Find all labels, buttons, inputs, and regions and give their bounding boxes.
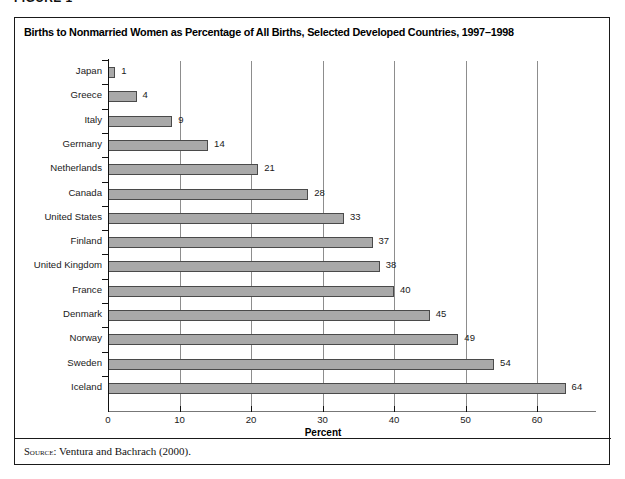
y-axis-tick [102,254,108,255]
y-axis-tick [102,376,108,377]
bar-row[interactable]: 37 [108,231,609,255]
bar-united-kingdom[interactable] [108,261,380,272]
category-label-norway: Norway [16,332,102,343]
bar-canada[interactable] [108,189,308,200]
bar-france[interactable] [108,286,394,297]
y-axis-tick [102,182,108,183]
plot-area: 1491421283337384045495464 [108,61,609,409]
bar-value-label: 14 [214,138,225,149]
bar-row[interactable]: 40 [108,280,609,304]
bar-row[interactable]: 45 [108,304,609,328]
bar-row[interactable]: 49 [108,328,609,352]
bar-row[interactable]: 9 [108,110,609,134]
x-axis-tick-10 [180,406,181,412]
category-label-netherlands: Netherlands [16,162,102,173]
bar-value-label: 49 [464,332,475,343]
bar-value-label: 4 [143,89,148,100]
y-axis-tick [102,327,108,328]
x-axis-tick-label-60: 60 [532,414,543,425]
bar-finland[interactable] [108,237,373,248]
x-axis-tick-label-0: 0 [105,414,110,425]
y-axis-tick [102,279,108,280]
bar-norway[interactable] [108,334,458,345]
x-axis-tick-40 [394,406,395,412]
y-axis-tick [102,157,108,158]
x-axis-tick-label-20: 20 [246,414,257,425]
bar-germany[interactable] [108,140,208,151]
source-label: Source: [24,446,56,457]
y-axis-tick [102,109,108,110]
bar-row[interactable]: 1 [108,61,609,85]
chart-plot: 1491421283337384045495464 Percent JapanG… [15,18,611,466]
bar-greece[interactable] [108,91,137,102]
x-axis-tick-20 [251,406,252,412]
category-label-greece: Greece [16,89,102,100]
bar-value-label: 9 [178,114,183,125]
source-divider [15,438,611,439]
x-axis-tick-50 [466,406,467,412]
category-label-italy: Italy [16,114,102,125]
y-axis-line [108,59,109,411]
bar-italy[interactable] [108,116,172,127]
category-label-germany: Germany [16,138,102,149]
x-axis-tick-0 [108,406,109,412]
bar-row[interactable]: 4 [108,85,609,109]
figure-number-label: FIGURE 1 [14,0,73,5]
x-axis-tick-60 [537,406,538,412]
bar-row[interactable]: 64 [108,377,609,401]
category-label-united-states: United States [16,211,102,222]
bar-value-label: 45 [436,308,447,319]
x-axis-tick-label-30: 30 [317,414,328,425]
x-axis-tick-label-50: 50 [460,414,471,425]
bar-value-label: 33 [350,211,361,222]
category-label-united-kingdom: United Kingdom [16,259,102,270]
category-label-finland: Finland [16,235,102,246]
source-citation: Ventura and Bachrach (2000). [59,445,191,457]
category-label-france: France [16,284,102,295]
x-axis-line [108,411,596,412]
x-axis-tick-30 [323,406,324,412]
bar-row[interactable]: 54 [108,353,609,377]
bar-value-label: 38 [386,259,397,270]
category-label-sweden: Sweden [16,357,102,368]
bar-japan[interactable] [108,67,115,78]
bar-row[interactable]: 14 [108,134,609,158]
y-axis-tick [102,206,108,207]
bar-value-label: 1 [121,65,126,76]
figure-box: Births to Nonmarried Women as Percentage… [14,17,610,465]
bar-value-label: 37 [379,235,390,246]
bar-netherlands[interactable] [108,164,258,175]
category-label-denmark: Denmark [16,308,102,319]
x-axis-tick-label-10: 10 [174,414,185,425]
bar-iceland[interactable] [108,383,566,394]
x-axis-tick-label-40: 40 [389,414,400,425]
category-label-iceland: Iceland [16,381,102,392]
y-axis-tick [102,303,108,304]
y-axis-tick [102,60,108,61]
bar-sweden[interactable] [108,359,494,370]
bar-value-label: 28 [314,187,325,198]
source-note: Source: Ventura and Bachrach (2000). [24,445,191,457]
y-axis-tick [102,230,108,231]
bar-united-states[interactable] [108,213,344,224]
y-axis-tick [102,352,108,353]
bar-row[interactable]: 21 [108,158,609,182]
y-axis-tick [102,133,108,134]
bar-value-label: 40 [400,284,411,295]
bar-value-label: 64 [572,381,583,392]
bar-row[interactable]: 33 [108,207,609,231]
category-label-japan: Japan [16,65,102,76]
bar-value-label: 21 [264,162,275,173]
y-axis-tick [102,84,108,85]
bar-value-label: 54 [500,357,511,368]
bar-row[interactable]: 28 [108,183,609,207]
bar-row[interactable]: 38 [108,255,609,279]
category-label-canada: Canada [16,187,102,198]
x-axis-title: Percent [108,427,538,438]
bar-denmark[interactable] [108,310,430,321]
